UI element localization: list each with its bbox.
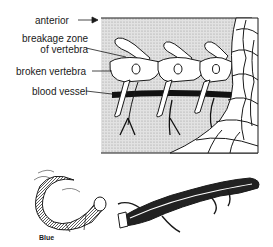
detached-tail [34, 170, 106, 232]
vertebral-cross-section [78, 17, 258, 153]
label-anterior: anterior [35, 15, 69, 26]
label-broken-vertebra: broken vertebra [16, 66, 86, 77]
lizard-torso [120, 178, 259, 226]
label-breakage-zone: breakage zone of vertebra [22, 33, 88, 55]
label-breakage-zone-line1: breakage zone [22, 33, 88, 44]
tail-cut-end [94, 197, 106, 211]
label-breakage-zone-line2: of vertebra [22, 44, 88, 55]
label-blood-vessel: blood vessel [32, 86, 88, 97]
lizard-body [118, 178, 259, 232]
lizard-cut-end [118, 212, 128, 228]
label-blue: Blue [39, 232, 54, 243]
